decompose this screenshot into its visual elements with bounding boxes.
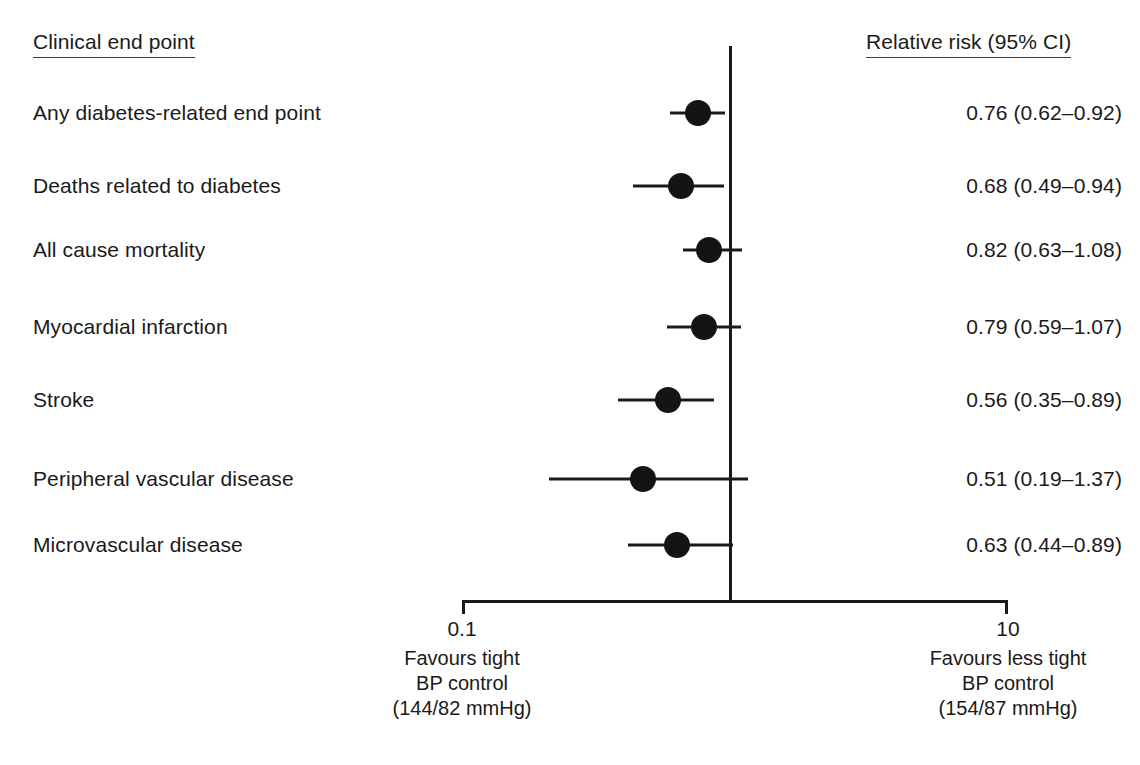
row-value: 0.76 (0.62–0.92) [966, 101, 1122, 125]
favours-less-tight-bp-caption-line2: BP control [930, 671, 1087, 696]
row-label: Myocardial infarction [33, 315, 228, 339]
row-value: 0.56 (0.35–0.89) [966, 388, 1122, 412]
favours-tight-bp-caption-line2: BP control [393, 671, 532, 696]
x-axis-tick-label: 0.1 [447, 617, 476, 641]
favours-tight-bp-caption-line3: (144/82 mmHg) [393, 696, 532, 721]
point-estimate-marker [630, 466, 656, 492]
favours-less-tight-bp-caption: Favours less tightBP control(154/87 mmHg… [930, 646, 1087, 721]
null-effect-reference-line [729, 46, 732, 600]
point-estimate-marker [668, 173, 694, 199]
row-value: 0.79 (0.59–1.07) [966, 315, 1122, 339]
favours-tight-bp-caption-line1: Favours tight [393, 646, 532, 671]
row-label: Peripheral vascular disease [33, 467, 294, 491]
forest-plot-figure: Clinical end point Relative risk (95% CI… [0, 0, 1140, 765]
row-label: Any diabetes-related end point [33, 101, 321, 125]
favours-less-tight-bp-caption-line3: (154/87 mmHg) [930, 696, 1087, 721]
row-value: 0.63 (0.44–0.89) [966, 533, 1122, 557]
point-estimate-marker [655, 387, 681, 413]
point-estimate-marker [664, 532, 690, 558]
row-value: 0.51 (0.19–1.37) [966, 467, 1122, 491]
point-estimate-marker [685, 100, 711, 126]
x-axis-tick-label: 10 [996, 617, 1019, 641]
x-axis-tick [462, 600, 465, 614]
row-label: All cause mortality [33, 238, 205, 262]
row-label: Deaths related to diabetes [33, 174, 281, 198]
point-estimate-marker [696, 237, 722, 263]
point-estimate-marker [691, 314, 717, 340]
x-axis-tick [1005, 600, 1008, 614]
row-label: Microvascular disease [33, 533, 243, 557]
favours-tight-bp-caption: Favours tightBP control(144/82 mmHg) [393, 646, 532, 721]
row-value: 0.68 (0.49–0.94) [966, 174, 1122, 198]
x-axis-line [462, 600, 1008, 603]
row-label: Stroke [33, 388, 94, 412]
favours-less-tight-bp-caption-line1: Favours less tight [930, 646, 1087, 671]
row-value: 0.82 (0.63–1.08) [966, 238, 1122, 262]
